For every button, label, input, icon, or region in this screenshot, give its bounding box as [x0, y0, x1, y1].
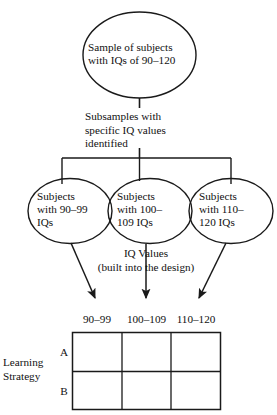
subsamples-caption: Subsamples withspecific IQ valuesidentif… [85, 110, 197, 151]
group-1-line-2: with 100– [117, 203, 162, 215]
group-ellipse-label-0: Subjectswith 90–99IQs [37, 190, 111, 229]
matrix-column-header-0: 90–99 [72, 313, 122, 326]
group-1-line-1: Subjects [117, 190, 155, 202]
matrix-row-label-0: A [58, 346, 70, 359]
group-ellipse-label-2: Subjectswith 110–120 IQs [199, 190, 273, 229]
matrix-factor-label-line-2: Strategy [3, 370, 40, 382]
top-ellipse-line-2: with IQs of 90–120 [88, 54, 175, 66]
matrix-column-header-2: 110–120 [170, 313, 222, 326]
iq-values-caption-line-2: (built into the design) [98, 261, 195, 273]
group-1-line-3: 109 IQs [117, 216, 153, 228]
matrix-column-header-1: 100–109 [121, 313, 172, 326]
matrix-row-label-1: B [58, 385, 70, 398]
subsamples-caption-line-1: Subsamples with [85, 110, 161, 122]
subsamples-caption-line-2: specific IQ values [85, 124, 166, 136]
group-2-line-3: 120 IQs [199, 216, 235, 228]
group-0-line-1: Subjects [37, 190, 75, 202]
iq-values-caption: IQ Values(built into the design) [70, 247, 222, 274]
matrix-factor-label: LearningStrategy [3, 355, 59, 383]
subsamples-caption-line-3: identified [85, 137, 128, 149]
top-ellipse-line-1: Sample of subjects [88, 41, 173, 53]
group-2-line-2: with 110– [199, 203, 244, 215]
group-0-line-2: with 90–99 [37, 203, 88, 215]
group-2-line-1: Subjects [199, 190, 237, 202]
diagram-canvas: Sample of subjectswith IQs of 90–120 Sub… [0, 0, 277, 415]
group-ellipse-label-1: Subjectswith 100–109 IQs [117, 190, 191, 229]
iq-values-caption-line-1: IQ Values [124, 247, 168, 259]
matrix-factor-label-line-1: Learning [3, 356, 43, 368]
group-0-line-3: IQs [37, 216, 53, 228]
top-ellipse-label: Sample of subjectswith IQs of 90–120 [88, 41, 192, 67]
